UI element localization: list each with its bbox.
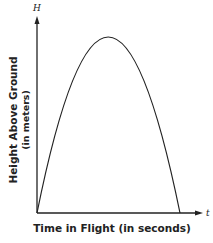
x-axis-arrow-icon xyxy=(195,211,203,216)
height-curve xyxy=(37,37,180,213)
x-axis-variable: t xyxy=(206,208,210,218)
x-axis-label: Time in Flight (in seconds) xyxy=(33,222,191,234)
y-axis-variable: H xyxy=(32,3,41,13)
y-axis-arrow-icon xyxy=(35,16,40,24)
y-axis-label: Height Above Ground xyxy=(7,56,19,183)
y-axis-units: (in meters) xyxy=(20,90,31,150)
projectile-chart: H t Time in Flight (in seconds) Height A… xyxy=(0,0,213,243)
